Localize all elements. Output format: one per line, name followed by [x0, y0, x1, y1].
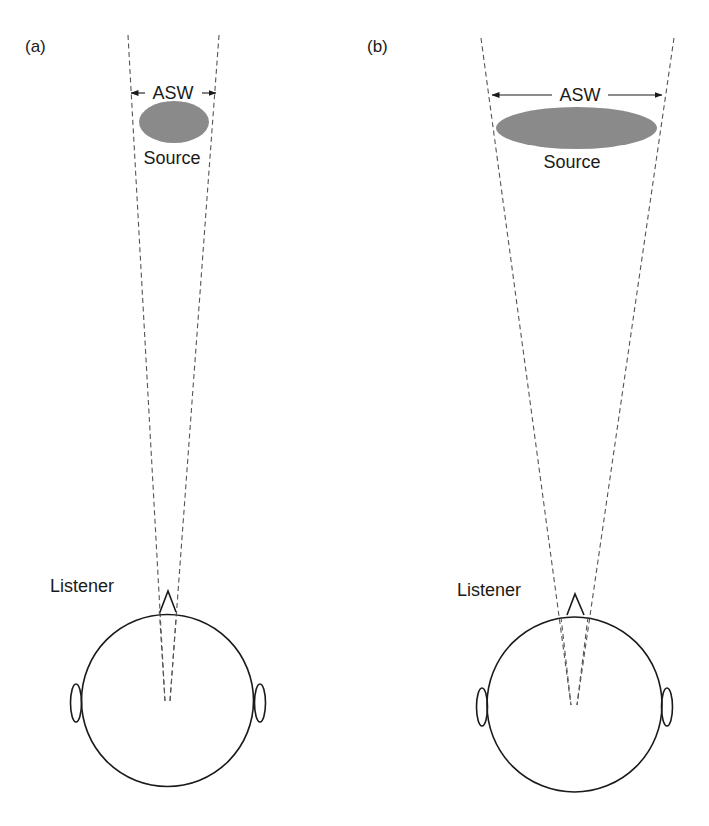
panel-b-label: (b)	[367, 37, 388, 56]
panel-b-source-label: Source	[543, 152, 600, 172]
panel-b-source-ellipse	[496, 107, 657, 149]
panel-b-left-ear-icon	[477, 688, 488, 726]
panel-a: (a) ASW Source Listener	[25, 35, 266, 787]
panel-b-left-sightline-inner	[561, 617, 571, 705]
panel-b-right-sightline-inner	[577, 617, 588, 705]
panel-a-left-ear-icon	[71, 684, 82, 722]
panel-b-listener-label: Listener	[457, 580, 521, 600]
panel-b-head-icon	[487, 617, 662, 792]
panel-b: (b) ASW Source Listener	[367, 37, 674, 792]
panel-a-source-ellipse	[139, 101, 209, 143]
panel-a-listener-label: Listener	[50, 576, 114, 596]
panel-b-nose-icon	[567, 594, 584, 615]
panel-a-head-icon	[82, 615, 254, 787]
panel-a-nose-icon	[160, 591, 176, 612]
asw-diagram: (a) ASW Source Listener (b) ASW Source	[0, 0, 709, 826]
panel-b-right-ear-icon	[662, 688, 673, 726]
panel-a-left-sightline-inner	[159, 611, 165, 701]
panel-b-asw-label: ASW	[559, 85, 600, 105]
panel-a-asw-label: ASW	[152, 83, 193, 103]
panel-a-right-ear-icon	[255, 684, 266, 722]
panel-a-source-label: Source	[143, 148, 200, 168]
panel-a-label: (a)	[25, 37, 46, 56]
